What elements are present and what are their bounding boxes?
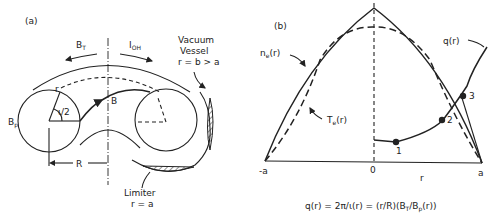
density-label: ne(r) [260,48,280,59]
field-line [102,90,150,100]
temperature-label: Te(r) [326,115,347,126]
safety-factor-formula: q(r) = 2π/ι(r) = (r/R)(BT/Bp(r)) [305,201,437,213]
point-1-marker [393,139,399,145]
minor-radius-label: r [55,84,59,94]
point-2-marker [439,117,445,123]
x-tick-minus-a: -a [259,166,268,176]
poloidal-field-label: Bp [8,117,18,129]
right-cross-section [135,89,197,151]
limiter-pointer [142,172,150,188]
ohmic-current-label: IOH [129,40,141,51]
q-edge-line [462,98,482,163]
panel-b-label: (b) [274,21,287,31]
field-line-arrow [80,100,102,121]
ohmic-current-arrow [120,54,152,61]
torus-dashed-contour [61,77,160,92]
vacuum-vessel-label-2: Vessel [180,46,208,56]
vacuum-vessel-wall [132,92,210,171]
point-2-label: 2 [447,115,453,125]
limiter-label-2: r = a [131,199,153,209]
point-3-marker [460,93,466,99]
limiter-label-1: Limiter [124,188,156,198]
R-arrowhead [49,160,55,166]
x-tick-a: a [478,168,484,178]
panel-a-tokamak-schematic: (a) BT IOH r ι/2 Bp B [8,16,219,209]
x-axis-label: r [420,173,424,183]
vacuum-vessel-pointer [194,72,205,88]
x-tick-zero: 0 [370,165,376,175]
rotational-transform-label: ι/2 [58,107,70,117]
panel-a-label: (a) [25,16,38,26]
safety-factor-pointer [468,40,484,47]
torus-inner-bottom [80,130,140,148]
point-3-label: 3 [469,91,475,101]
temperature-pointer [310,108,322,119]
right-dashed-r [158,98,166,122]
vacuum-vessel-hatch [208,98,214,150]
density-pointer [290,55,305,66]
limiter-hatch [143,166,194,171]
vacuum-vessel-label-1: Vacuum [178,35,214,45]
x-axis [265,161,482,163]
vacuum-vessel-label-3: r = b > a [178,57,219,67]
point-1-label: 1 [396,146,402,156]
major-radius-label: R [76,159,82,169]
total-field-label: B [111,96,117,106]
panel-b-profiles-chart: (b) ne(r) Te(r) q(r) 1 2 3 -a 0 a r q(r)… [259,3,487,213]
toroidal-field-arrow [66,54,97,60]
diagram-canvas: (a) BT IOH r ι/2 Bp B [0,0,496,217]
safety-factor-label: q(r) [443,36,459,46]
toroidal-field-label: BT [76,40,86,51]
